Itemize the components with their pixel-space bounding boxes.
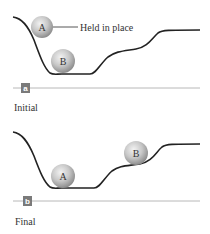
ball-b-label: B: [133, 148, 140, 159]
ball-a: A: [51, 164, 75, 188]
badge-b-text: b: [25, 197, 30, 206]
ball-b-label: B: [60, 56, 67, 67]
caption-final: Final: [15, 216, 36, 227]
energy-diagram: Held in place A B a Initial A B b: [0, 0, 210, 234]
panel-badge-a: a: [21, 83, 30, 93]
panel-badge-b: b: [23, 196, 32, 206]
track-curve: [13, 132, 200, 188]
ball-a: A: [31, 16, 53, 38]
panel-initial: Held in place A B a Initial: [13, 16, 200, 113]
caption-initial: Initial: [14, 102, 38, 113]
held-in-place-label: Held in place: [80, 22, 134, 33]
panel-final: A B b Final: [13, 132, 200, 227]
ball-b: B: [124, 141, 148, 165]
ball-a-label: A: [38, 22, 46, 33]
ball-b: B: [51, 49, 75, 73]
badge-a-text: a: [23, 84, 28, 93]
ball-a-label: A: [59, 171, 67, 182]
